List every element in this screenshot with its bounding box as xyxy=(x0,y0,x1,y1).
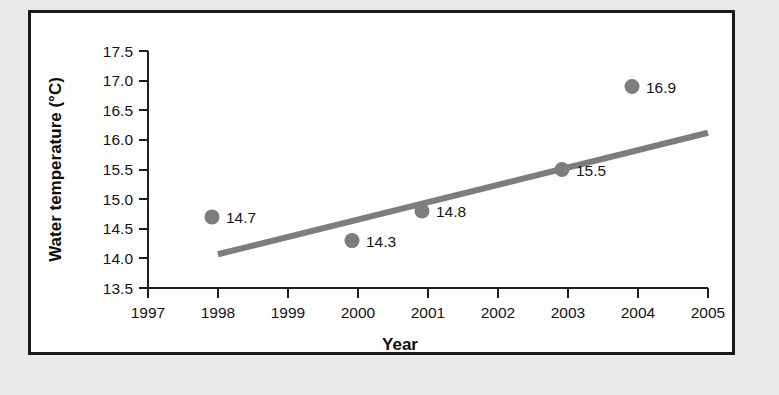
data-point-label: 15.5 xyxy=(576,162,606,179)
y-axis-tick-label: 14.5 xyxy=(103,220,133,237)
x-axis-title: Year xyxy=(382,335,418,354)
data-point-label: 14.7 xyxy=(226,209,256,226)
x-axis-tick-label: 1998 xyxy=(201,304,235,321)
x-axis-tick-label: 2004 xyxy=(621,304,656,321)
y-axis-tick-label: 15.0 xyxy=(103,191,134,208)
data-point-label: 14.8 xyxy=(436,203,466,220)
water-temperature-scatter-chart: 13.514.014.515.015.516.016.517.017.5 199… xyxy=(31,13,738,358)
data-point-marker xyxy=(205,209,220,224)
data-points: 14.714.314.815.516.9 xyxy=(205,79,677,250)
data-point-label: 14.3 xyxy=(366,233,396,250)
x-axis-tick-label: 2003 xyxy=(551,304,585,321)
y-axis-tick-label: 17.5 xyxy=(103,43,133,60)
y-axis-tick-label: 13.5 xyxy=(103,280,133,297)
data-point-marker xyxy=(415,203,430,218)
y-axis: 13.514.014.515.015.516.016.517.017.5 xyxy=(103,43,148,297)
y-axis-tick-label: 16.0 xyxy=(103,131,134,148)
y-axis-title: Water temperature (°C) xyxy=(46,77,65,262)
trend-line xyxy=(218,133,708,254)
trend-line-segment xyxy=(218,133,708,254)
x-axis-tick-label: 1999 xyxy=(271,304,305,321)
data-point-marker xyxy=(625,79,640,94)
x-axis-tick-label: 1997 xyxy=(131,304,165,321)
data-point-label: 16.9 xyxy=(646,79,676,96)
page-background: 13.514.014.515.015.516.016.517.017.5 199… xyxy=(0,0,779,395)
data-point-marker xyxy=(555,162,570,177)
x-axis-tick-label: 2005 xyxy=(691,304,725,321)
x-axis-tick-label: 2000 xyxy=(341,304,376,321)
y-axis-tick-label: 17.0 xyxy=(103,72,134,89)
x-axis-tick-label: 2001 xyxy=(411,304,445,321)
plot-area: 13.514.014.515.015.516.016.517.017.5 199… xyxy=(31,13,738,358)
figure-frame: 13.514.014.515.015.516.016.517.017.5 199… xyxy=(28,10,735,355)
y-axis-tick-label: 14.0 xyxy=(103,250,134,267)
x-axis: 199719981999200020012002200320042005 xyxy=(131,288,725,321)
data-point-marker xyxy=(345,233,360,248)
x-axis-tick-label: 2002 xyxy=(481,304,515,321)
y-axis-tick-label: 16.5 xyxy=(103,102,133,119)
y-axis-tick-label: 15.5 xyxy=(103,161,133,178)
